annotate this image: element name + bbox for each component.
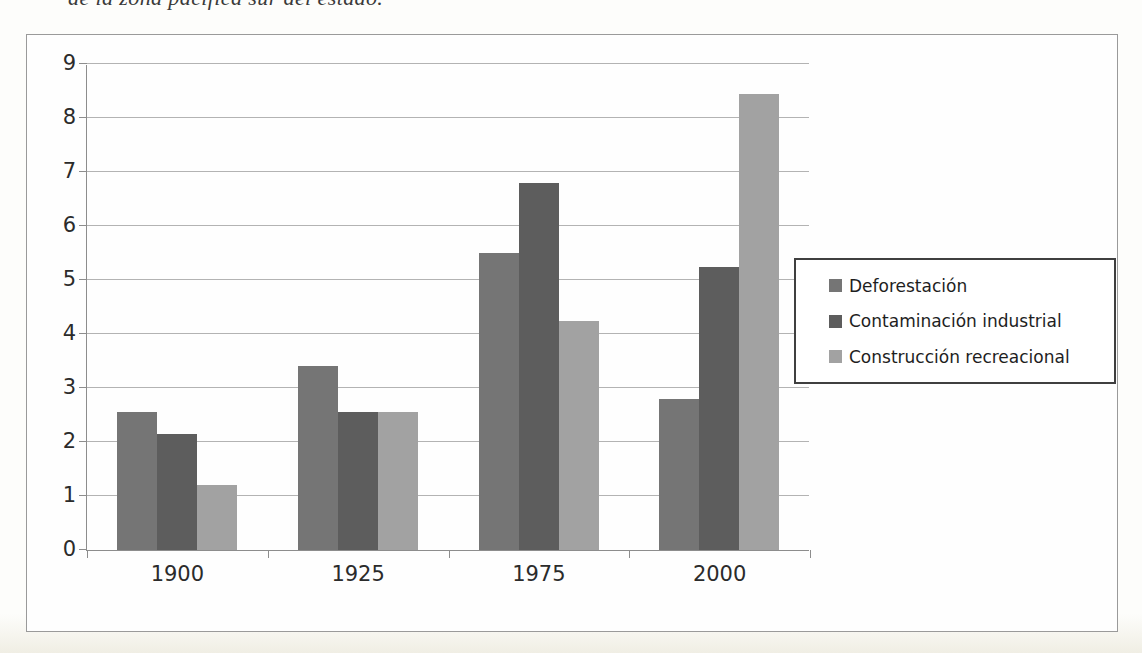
y-tick-label: 6 (46, 215, 76, 236)
x-axis-tick (449, 550, 450, 558)
y-axis-tick (79, 171, 87, 172)
legend-swatch-icon (829, 279, 842, 292)
y-axis-tick (79, 387, 87, 388)
bar-1975-series-3 (559, 321, 599, 551)
y-tick-label: 7 (46, 161, 76, 182)
bar-1900-series-1 (117, 412, 157, 550)
x-axis-tick (629, 550, 630, 558)
page: { "caption": { "text": "de la zona pacíf… (0, 0, 1142, 653)
y-tick-label: 1 (46, 485, 76, 506)
y-tick-label: 0 (46, 539, 76, 560)
legend-label: Deforestación (849, 276, 967, 296)
y-tick-label: 3 (46, 377, 76, 398)
y-tick-label: 5 (46, 269, 76, 290)
bar-1975-series-1 (479, 253, 519, 550)
x-tick-label: 1925 (298, 562, 418, 586)
legend-item-2: Contaminación industrial (829, 311, 1114, 331)
gridline (87, 63, 809, 64)
x-tick-label: 1975 (479, 562, 599, 586)
legend-label: Contaminación industrial (849, 311, 1062, 331)
plot-area: 01234567891900192519752000 (86, 65, 809, 551)
y-tick-label: 9 (46, 53, 76, 74)
bar-1975-series-2 (519, 183, 559, 550)
y-axis-tick (79, 279, 87, 280)
y-axis-tick (79, 63, 87, 64)
bar-2000-series-1 (659, 399, 699, 550)
gridline (87, 117, 809, 118)
y-tick-label: 2 (46, 431, 76, 452)
bar-1900-series-2 (157, 434, 197, 550)
x-tick-label: 1900 (117, 562, 237, 586)
x-tick-label: 2000 (660, 562, 780, 586)
x-axis-tick (268, 550, 269, 558)
gridline (87, 171, 809, 172)
y-tick-label: 4 (46, 323, 76, 344)
legend-swatch-icon (829, 350, 842, 363)
legend-item-3: Construcción recreacional (829, 347, 1114, 367)
legend-label: Construcción recreacional (849, 347, 1070, 367)
gridline (87, 225, 809, 226)
bar-1900-series-3 (197, 485, 237, 550)
bar-2000-series-3 (739, 94, 779, 550)
x-axis-tick (87, 550, 88, 558)
y-axis-tick (79, 117, 87, 118)
caption-fragment: de la zona pacífica sur del estado. (68, 0, 383, 11)
chart-frame: 01234567891900192519752000 Deforestación… (26, 34, 1118, 632)
y-axis-tick (79, 441, 87, 442)
x-axis-tick (810, 550, 811, 558)
y-axis-tick (79, 225, 87, 226)
bar-2000-series-2 (699, 267, 739, 551)
bar-1925-series-3 (378, 412, 418, 550)
bar-1925-series-2 (338, 412, 378, 550)
legend-swatch-icon (829, 315, 842, 328)
y-axis-tick (79, 549, 87, 550)
y-tick-label: 8 (46, 107, 76, 128)
chart-legend: DeforestaciónContaminación industrialCon… (794, 258, 1116, 384)
y-axis-tick (79, 495, 87, 496)
y-axis-tick (79, 333, 87, 334)
legend-item-1: Deforestación (829, 276, 1114, 296)
bar-1925-series-1 (298, 366, 338, 550)
